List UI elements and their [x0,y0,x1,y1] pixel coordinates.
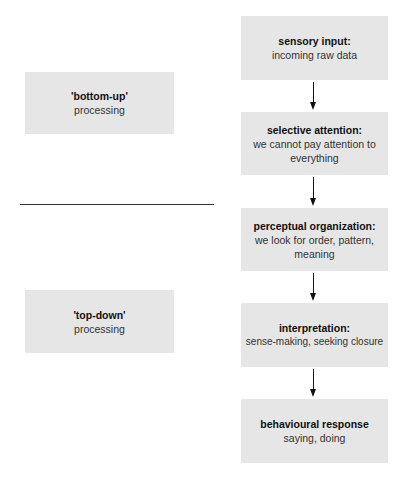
down-arrow-icon [310,369,317,397]
bottom-up-title: 'bottom-up' [71,89,128,103]
bottom-up-processing-box: 'bottom-up' processing [25,72,174,134]
step-selective-attention: selective attention: we cannot pay atten… [241,112,388,175]
step-subtitle: saying, doing [284,431,346,445]
step-subtitle: we cannot pay attention to everything [251,137,378,165]
bottom-up-subtitle: processing [74,103,125,117]
step-perceptual-organization: perceptual organization: we look for ord… [241,208,388,271]
step-title: perceptual organization: [254,219,376,233]
top-down-processing-box: 'top-down' processing [25,290,174,353]
step-subtitle: incoming raw data [272,48,357,62]
down-arrow-icon [310,177,317,206]
step-subtitle: we look for order, pattern, meaning [253,233,376,261]
down-arrow-icon [310,82,317,110]
processing-divider-line [20,204,214,205]
down-arrow-icon [310,273,317,301]
top-down-subtitle: processing [74,322,125,336]
step-sensory-input: sensory input: incoming raw data [241,16,388,80]
top-down-title: 'top-down' [73,308,125,322]
step-title: sensory input: [278,34,350,48]
step-behavioural-response: behavioural response saying, doing [241,399,388,463]
step-title: interpretation: [279,321,350,335]
step-interpretation: interpretation: sense-making, seeking cl… [241,303,388,367]
step-subtitle: sense-making, seeking closure [246,335,383,349]
step-title: behavioural response [260,417,369,431]
step-title: selective attention: [267,123,362,137]
